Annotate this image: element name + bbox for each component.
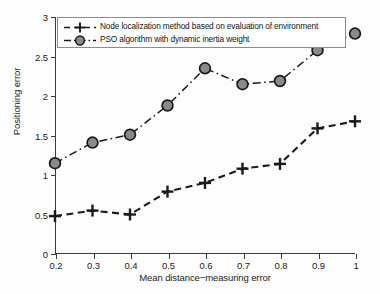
x-axis-tick: [244, 254, 245, 259]
legend-label: PSO algorithm with dynamic inertia weigh…: [100, 33, 249, 46]
x-axis-tick: [94, 254, 95, 259]
y-axis-tick-label: 0.5: [35, 209, 48, 220]
y-axis-tick: [51, 215, 56, 216]
x-axis-tick-label: 0.8: [275, 260, 288, 271]
legend-swatch-dashed-plus: [62, 20, 100, 33]
legend-swatch-dashdot-circle: [62, 33, 100, 46]
x-axis-tick: [169, 254, 170, 259]
legend-label: Node localization method based on evalua…: [100, 20, 318, 33]
x-axis-tick: [319, 254, 320, 259]
x-axis-tick: [131, 254, 132, 259]
x-axis-tick: [56, 254, 57, 259]
plot-area: 00.511.522.530.20.30.40.50.60.70.80.91: [55, 17, 355, 254]
y-axis-tick: [51, 136, 56, 137]
y-axis-tick-label: 2.5: [35, 51, 48, 62]
y-axis-tick: [51, 17, 56, 18]
x-axis-tick: [281, 254, 282, 259]
x-axis-tick-label: 0.2: [50, 260, 63, 271]
x-axis-tick-label: 0.6: [200, 260, 213, 271]
y-axis-tick-label: 2: [43, 91, 48, 102]
x-axis-tick: [206, 254, 207, 259]
x-axis-tick-label: 0.9: [312, 260, 325, 271]
y-axis-tick-label: 0: [43, 249, 48, 260]
x-axis-tick-label: 0.4: [125, 260, 138, 271]
x-axis-tick-label: 0.3: [87, 260, 100, 271]
y-axis-tick: [51, 175, 56, 176]
x-axis-tick-label: 1: [353, 260, 358, 271]
y-axis-tick-label: 1.5: [35, 130, 48, 141]
y-axis-tick: [51, 96, 56, 97]
chart-legend: Node localization method based on evalua…: [57, 17, 346, 48]
legend-item-node-localization: Node localization method based on evalua…: [62, 20, 345, 33]
y-axis-label: Positioning error: [11, 47, 22, 157]
x-axis-tick-label: 0.7: [237, 260, 250, 271]
y-axis-tick-label: 1: [43, 170, 48, 181]
x-axis-label: Mean distance−measuring error: [55, 272, 355, 283]
y-axis-tick: [51, 57, 56, 58]
x-axis-tick-label: 0.5: [162, 260, 175, 271]
legend-item-pso: PSO algorithm with dynamic inertia weigh…: [62, 33, 345, 46]
x-axis-tick: [356, 254, 357, 259]
y-axis-tick-label: 3: [43, 12, 48, 23]
chart-figure: 00.511.522.530.20.30.40.50.60.70.80.91 M…: [0, 0, 380, 294]
